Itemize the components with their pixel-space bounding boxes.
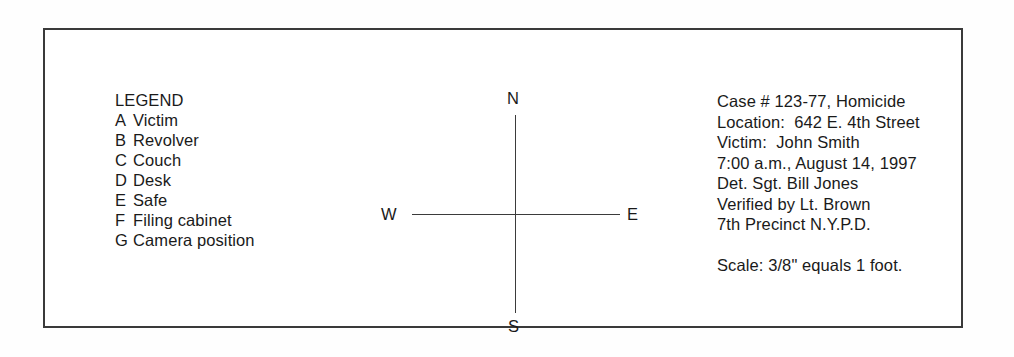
legend-block: LEGEND A Victim B Revolver C Couch D Des… xyxy=(115,90,255,250)
legend-item-b: B Revolver xyxy=(115,130,255,150)
legend-key-b: B xyxy=(115,130,133,150)
case-line-detective: Det. Sgt. Bill Jones xyxy=(717,173,920,194)
legend-label-e: Safe xyxy=(133,190,167,210)
compass-label-west: W xyxy=(381,206,397,223)
case-line-victim: Victim: John Smith xyxy=(717,132,920,153)
legend-label-f: Filing cabinet xyxy=(133,210,232,230)
compass-label-south: S xyxy=(508,318,519,335)
case-line-location: Location: 642 E. 4th Street xyxy=(717,112,920,133)
legend-label-a: Victim xyxy=(133,110,178,130)
legend-item-d: D Desk xyxy=(115,170,255,190)
legend-item-c: C Couch xyxy=(115,150,255,170)
compass-label-north: N xyxy=(507,90,519,107)
legend-item-f: F Filing cabinet xyxy=(115,210,255,230)
sketch-sheet-frame: LEGEND A Victim B Revolver C Couch D Des… xyxy=(43,28,963,328)
case-line-scale: Scale: 3/8" equals 1 foot. xyxy=(717,255,920,276)
legend-item-a: A Victim xyxy=(115,110,255,130)
legend-label-c: Couch xyxy=(133,150,181,170)
legend-label-b: Revolver xyxy=(133,130,199,150)
legend-key-c: C xyxy=(115,150,133,170)
legend-item-g: G Camera position xyxy=(115,230,255,250)
compass-label-east: E xyxy=(627,206,638,223)
legend-key-e: E xyxy=(115,190,133,210)
legend-label-g: Camera position xyxy=(133,230,255,250)
case-line-datetime: 7:00 a.m., August 14, 1997 xyxy=(717,153,920,174)
legend-label-d: Desk xyxy=(133,170,171,190)
legend-title: LEGEND xyxy=(115,90,255,110)
compass-axis-horizontal xyxy=(412,214,620,215)
legend-key-d: D xyxy=(115,170,133,190)
case-line-precinct: 7th Precinct N.Y.P.D. xyxy=(717,214,920,235)
case-line-number: Case # 123-77, Homicide xyxy=(717,91,920,112)
compass-rose: N S W E xyxy=(375,82,665,344)
legend-key-f: F xyxy=(115,210,133,230)
case-line-verified: Verified by Lt. Brown xyxy=(717,194,920,215)
legend-key-a: A xyxy=(115,110,133,130)
page-background: LEGEND A Victim B Revolver C Couch D Des… xyxy=(0,0,1014,357)
legend-item-e: E Safe xyxy=(115,190,255,210)
legend-key-g: G xyxy=(115,230,133,250)
case-info-block: Case # 123-77, Homicide Location: 642 E.… xyxy=(717,91,920,276)
